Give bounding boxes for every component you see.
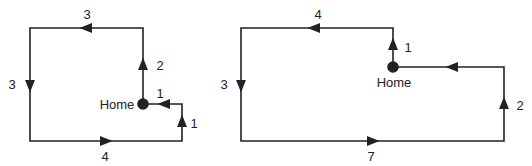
home-dot-icon <box>138 99 148 109</box>
segment-label: 2 <box>516 99 523 112</box>
diagram-canvas <box>0 0 532 166</box>
path-a-route <box>30 28 182 141</box>
segment-label: 3 <box>83 8 90 21</box>
segment-label: 3 <box>8 78 15 91</box>
segment-label: 3 <box>220 78 227 91</box>
segment-label: 4 <box>101 150 108 163</box>
path-b-route <box>241 28 504 141</box>
segment-label: 1 <box>190 117 197 130</box>
segment-label: 1 <box>156 87 163 100</box>
segment-label: 4 <box>314 8 321 21</box>
home-dot-icon <box>388 62 398 72</box>
home-label: Home <box>377 76 412 89</box>
segment-label: 7 <box>367 150 374 163</box>
segment-label: 1 <box>404 41 411 54</box>
segment-label: 2 <box>156 59 163 72</box>
path-a <box>30 28 182 141</box>
path-b <box>241 28 504 141</box>
home-label: Home <box>100 98 135 111</box>
